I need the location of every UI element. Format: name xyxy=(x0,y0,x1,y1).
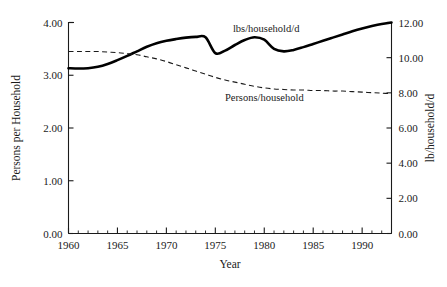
y-axis-right-title: lb/household/d xyxy=(424,94,436,163)
x-axis-title: Year xyxy=(219,258,240,270)
y-right-tick-label: 12.00 xyxy=(399,17,424,29)
y-axis-left-ticks xyxy=(69,23,74,234)
chart-figure: 0.001.002.003.004.00 0.002.004.006.008.0… xyxy=(0,0,447,287)
x-tick-label: 1970 xyxy=(155,239,178,251)
y-left-tick-label: 4.00 xyxy=(43,17,63,29)
y-right-tick-label: 8.00 xyxy=(399,87,419,99)
y-axis-left-tick-labels: 0.001.002.003.004.00 xyxy=(43,17,63,240)
x-axis-tick-labels: 1960196519701975198019851990 xyxy=(58,239,374,251)
series-annotations: lbs/household/dPersons/household xyxy=(225,23,305,103)
x-tick-label: 1960 xyxy=(58,239,81,251)
x-tick-label: 1965 xyxy=(106,239,129,251)
y-right-tick-label: 4.00 xyxy=(399,157,419,169)
x-tick-label: 1985 xyxy=(302,239,325,251)
x-axis-major-ticks xyxy=(69,228,363,234)
x-tick-label: 1980 xyxy=(253,239,276,251)
y-right-tick-label: 0.00 xyxy=(399,228,419,240)
series-line-lbs-household-d xyxy=(69,23,392,69)
y-right-tick-label: 6.00 xyxy=(399,122,419,134)
y-axis-left-title: Persons per Household xyxy=(10,75,23,181)
y-left-tick-label: 1.00 xyxy=(43,175,63,187)
y-left-tick-label: 3.00 xyxy=(43,69,63,81)
y-right-tick-label: 2.00 xyxy=(399,192,419,204)
line-chart: 0.001.002.003.004.00 0.002.004.006.008.0… xyxy=(0,0,447,287)
x-tick-label: 1975 xyxy=(204,239,227,251)
y-axis-right-ticks xyxy=(387,23,392,234)
y-right-tick-label: 10.00 xyxy=(399,52,424,64)
x-tick-label: 1990 xyxy=(351,239,374,251)
y-axis-right-tick-labels: 0.002.004.006.008.0010.0012.00 xyxy=(399,17,424,240)
series-group xyxy=(69,23,392,94)
y-left-tick-label: 2.00 xyxy=(43,122,63,134)
axes-group xyxy=(69,22,392,234)
series-annotation: Persons/household xyxy=(225,92,305,103)
series-annotation: lbs/household/d xyxy=(233,23,300,34)
series-line-persons-household xyxy=(69,51,392,93)
